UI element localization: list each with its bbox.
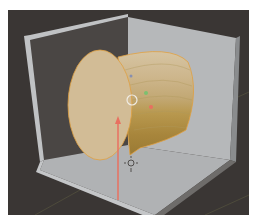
z-axis-dot (130, 75, 133, 78)
x-axis-handle[interactable] (149, 105, 153, 109)
3d-viewport[interactable] (8, 10, 249, 215)
y-axis-handle[interactable] (144, 91, 148, 95)
scene-canvas[interactable] (8, 10, 249, 215)
cylinder-cap[interactable] (68, 50, 132, 160)
